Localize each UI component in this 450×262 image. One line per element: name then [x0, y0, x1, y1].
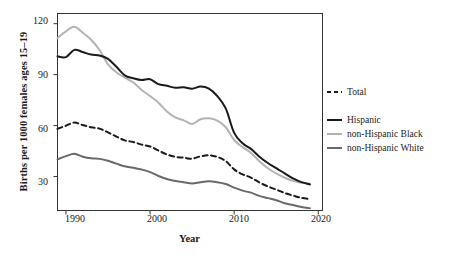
series-line-total: [58, 123, 310, 200]
legend-item-hispanic[interactable]: Hispanic: [327, 113, 381, 127]
series-line-non-hispanic-black: [58, 27, 310, 184]
plot-frame: [58, 14, 323, 211]
legend-swatch-non-hispanic-white: [327, 143, 342, 153]
legend-item-non-hispanic-black[interactable]: non-Hispanic Black: [327, 127, 423, 141]
legend-label-non-hispanic-white: non-Hispanic White: [347, 143, 424, 153]
series-line-hispanic: [58, 50, 310, 185]
legend-item-total[interactable]: Total: [327, 85, 366, 99]
legend-label-total: Total: [347, 87, 366, 97]
chart-figure: Births per 1000 females ages 15–19 120 9…: [0, 0, 450, 262]
legend-label-hispanic: Hispanic: [347, 115, 381, 125]
legend-label-non-hispanic-black: non-Hispanic Black: [347, 129, 423, 139]
legend-swatch-hispanic: [327, 115, 342, 125]
legend-item-non-hispanic-white[interactable]: non-Hispanic White: [327, 141, 424, 155]
series-line-non-hispanic-white: [58, 154, 310, 208]
data-series-group: [58, 27, 310, 208]
axis-ticks: [54, 24, 319, 215]
legend-swatch-total: [327, 87, 342, 97]
legend-swatch-non-hispanic-black: [327, 129, 342, 139]
